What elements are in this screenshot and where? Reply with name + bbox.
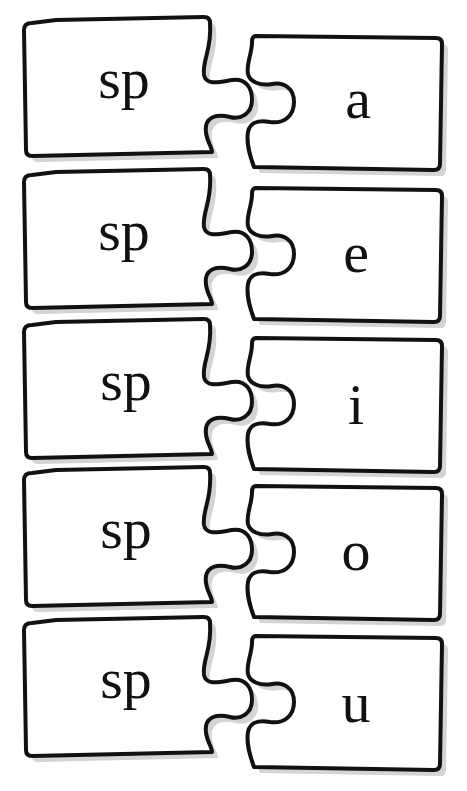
right-piece-label: i [348,372,364,437]
left-piece-label: sp [100,348,152,413]
left-piece-label: sp [98,198,150,263]
left-piece-label: sp [100,646,152,711]
left-piece-label: sp [100,496,152,561]
puzzle-row-3-right: i [247,338,448,478]
left-piece-sp[interactable]: sp [24,17,258,162]
left-piece-sp[interactable]: sp [24,467,258,612]
puzzle-row-4-right: o [247,486,448,626]
puzzle-row-5-right: u [247,636,448,776]
right-piece-label: a [345,66,371,131]
puzzle-row-1: sp [24,17,258,162]
puzzle-row-1-right: a [247,36,448,176]
puzzle-row-3: sp [24,319,258,464]
right-piece-label: e [343,220,369,285]
puzzle-row-4: sp [24,467,258,612]
right-piece-o[interactable]: o [247,486,448,626]
right-piece-label: o [342,518,371,583]
right-piece-label: u [342,670,371,735]
right-piece-u[interactable]: u [247,636,448,776]
puzzle-row-2-right: e [247,188,448,328]
right-piece-e[interactable]: e [247,188,448,328]
puzzle-row-5: sp [24,617,258,762]
left-piece-sp[interactable]: sp [24,169,258,314]
puzzle-worksheet: sp a sp e sp [0,0,467,791]
left-piece-sp[interactable]: sp [24,617,258,762]
left-piece-sp[interactable]: sp [24,319,258,464]
puzzle-row-2: sp [24,169,258,314]
left-piece-label: sp [98,46,150,111]
right-piece-a[interactable]: a [247,36,448,176]
right-piece-i[interactable]: i [247,338,448,478]
